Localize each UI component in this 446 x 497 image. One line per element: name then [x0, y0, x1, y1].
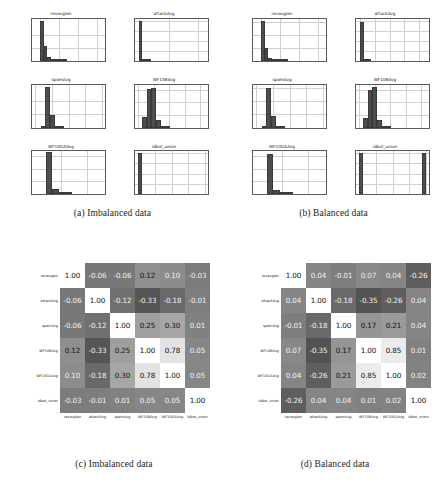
- correlation-cell: 0.05: [135, 388, 160, 413]
- y-tick-mark: [134, 21, 135, 22]
- y-tick-mark: [252, 101, 253, 102]
- panel-b-balanced-histograms: revavglen0100000200000300000010000200003…: [235, 12, 432, 202]
- gridline-vertical: [393, 151, 394, 194]
- x-tick-mark: [306, 128, 307, 129]
- matrix-row-label: WF10BAvg: [260, 349, 279, 353]
- x-tick-mark: [323, 128, 324, 129]
- matrix-column-label: idbot_union: [187, 415, 207, 419]
- y-tick-mark: [31, 61, 32, 62]
- matrix-row-label: spamAvg: [263, 324, 279, 328]
- y-tick-mark: [252, 35, 253, 36]
- correlation-cell: -0.26: [306, 363, 331, 388]
- correlation-cell: 0.17: [331, 338, 356, 363]
- correlation-cell: 0.01: [406, 338, 431, 363]
- gridline-horizontal: [356, 41, 429, 42]
- correlation-cell: 1.00: [85, 288, 110, 313]
- gridline-horizontal: [356, 174, 429, 175]
- matrix-row-label: spamAvg: [42, 324, 58, 328]
- gridline-vertical: [256, 85, 257, 128]
- correlation-cell: 1.00: [381, 363, 406, 388]
- histogram-bar: [139, 21, 142, 61]
- correlation-cell: 0.10: [60, 363, 85, 388]
- gridline-horizontal: [32, 181, 105, 182]
- gridline-horizontal: [32, 169, 105, 170]
- gridline-vertical: [97, 19, 98, 62]
- gridline-vertical: [205, 151, 206, 194]
- correlation-cell: 0.21: [331, 363, 356, 388]
- y-tick-mark: [355, 21, 356, 22]
- plot-area: 0.00.20.40.60.8050001000015000: [134, 84, 209, 129]
- x-tick-mark: [390, 128, 391, 129]
- y-tick-mark: [355, 184, 356, 185]
- x-tick-mark: [390, 61, 391, 62]
- gridline-horizontal: [356, 128, 429, 129]
- correlation-cell: 0.30: [160, 313, 185, 338]
- y-tick-mark: [134, 41, 135, 42]
- gridline-horizontal: [356, 163, 429, 164]
- gridline-vertical: [359, 85, 360, 128]
- gridline-vertical: [282, 151, 283, 194]
- correlation-cell: -0.33: [135, 288, 160, 313]
- correlation-cell: -0.18: [85, 363, 110, 388]
- y-tick-mark: [134, 115, 135, 116]
- x-tick-mark: [35, 128, 36, 129]
- matrix-column-label: attackAvg: [310, 415, 327, 419]
- correlation-cell: 0.85: [356, 363, 381, 388]
- plot-area: 0.010.020100002000030000: [31, 150, 106, 195]
- correlation-cell: 0.78: [160, 338, 185, 363]
- histogram-subplot: revavglen0100000200000300000010000200003…: [235, 12, 329, 69]
- plot-area: 0.000.250.500.751.000100002000030000: [252, 84, 327, 129]
- x-tick-mark: [375, 128, 376, 129]
- x-tick-mark: [102, 128, 103, 129]
- gridline-vertical: [299, 19, 300, 62]
- correlation-cell: -0.26: [381, 288, 406, 313]
- x-tick-mark: [40, 61, 41, 62]
- gridline-horizontal: [32, 101, 105, 102]
- histogram-subplot: WF10GAAvg0.010.020100002000030000: [235, 145, 329, 202]
- gridline-horizontal: [356, 184, 429, 185]
- histogram-title: idbot_union: [117, 144, 211, 149]
- y-tick-mark: [134, 174, 135, 175]
- x-tick-mark: [200, 128, 201, 129]
- y-tick-mark: [355, 194, 356, 195]
- gridline-horizontal: [135, 184, 208, 185]
- correlation-cell: 0.04: [281, 363, 306, 388]
- x-tick-mark: [376, 194, 377, 195]
- histogram-title: WF10GAAvg: [14, 144, 108, 149]
- y-tick-mark: [355, 115, 356, 116]
- correlation-cell: -0.35: [356, 288, 381, 313]
- x-tick-mark: [426, 194, 427, 195]
- gridline-vertical: [290, 85, 291, 128]
- gridline-vertical: [308, 151, 309, 194]
- histogram-bar: [386, 126, 391, 128]
- correlation-cell: 0.01: [356, 388, 381, 413]
- y-tick-mark: [252, 61, 253, 62]
- correlation-cell: 0.10: [160, 263, 185, 288]
- y-tick-mark: [355, 163, 356, 164]
- correlation-cell: -0.06: [60, 313, 85, 338]
- correlation-cell: 0.04: [306, 388, 331, 413]
- gridline-vertical: [323, 85, 324, 128]
- gridline-vertical: [78, 19, 79, 62]
- histogram-bar: [280, 126, 285, 128]
- histogram-subplot: revavglen010000020000030000001000020000: [14, 12, 108, 69]
- matrix-row-label: WF10GAAvg: [257, 374, 279, 378]
- gridline-vertical: [35, 85, 36, 128]
- gridline-vertical: [69, 85, 70, 128]
- histogram-bar: [138, 153, 141, 194]
- histogram-title: idbot_union: [338, 144, 432, 149]
- figure-root: revavglen010000020000030000001000020000a…: [0, 0, 446, 497]
- x-tick-mark: [409, 194, 410, 195]
- x-tick-mark: [359, 128, 360, 129]
- histogram-title: attackAvg: [117, 11, 211, 16]
- y-tick-mark: [355, 41, 356, 42]
- gridline-horizontal: [135, 194, 208, 195]
- x-tick-mark: [205, 194, 206, 195]
- gridline-horizontal: [135, 61, 208, 62]
- correlation-cell: -0.12: [110, 288, 135, 313]
- gridline-vertical: [172, 151, 173, 194]
- correlation-cell: 0.04: [406, 288, 431, 313]
- correlation-cell: 0.05: [160, 388, 185, 413]
- gridline-vertical: [85, 85, 86, 128]
- gridline-vertical: [421, 85, 422, 128]
